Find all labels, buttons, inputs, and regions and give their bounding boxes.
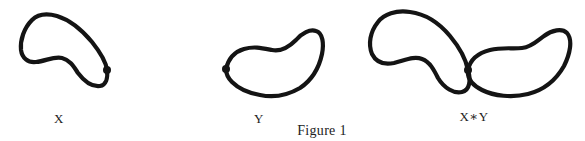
wedge-right-curve [468,30,570,96]
loop-wedge [370,11,570,96]
figure-canvas [0,0,585,141]
loop-x [21,14,111,86]
figure-caption: Figure 1 [297,123,346,139]
label-y: Y [254,111,264,127]
loop-y-curve [226,30,323,96]
loop-y [222,30,323,96]
loop-x-basepoint [103,66,111,74]
loop-y-basepoint [222,65,230,73]
wedge-basepoint [464,66,472,74]
loop-x-curve [21,14,107,86]
label-x: X [54,111,64,127]
wedge-left-curve [370,11,470,92]
label-x-star-y: X∗Y [459,109,488,125]
